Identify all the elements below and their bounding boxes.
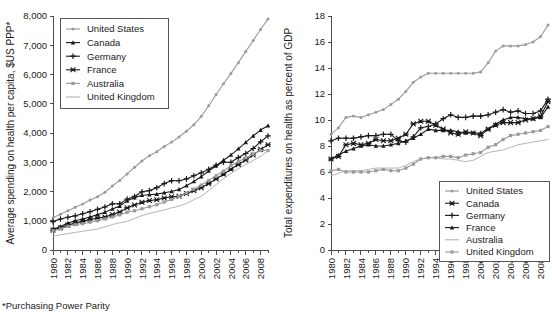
y-tick-label: 10 bbox=[314, 114, 325, 125]
data-point-marker bbox=[449, 155, 452, 158]
data-point-marker bbox=[397, 169, 400, 172]
data-point-marker bbox=[237, 160, 240, 163]
data-point-marker bbox=[479, 70, 482, 73]
data-point-marker bbox=[494, 50, 497, 53]
y-tick-label: 4,000 bbox=[23, 127, 47, 138]
data-point-marker bbox=[425, 119, 431, 124]
data-point-marker bbox=[547, 24, 550, 27]
x-tick-label: 1990 bbox=[122, 258, 133, 279]
data-point-marker bbox=[478, 113, 484, 119]
y-tick-label: 0 bbox=[320, 244, 325, 255]
x-tick-label: 1986 bbox=[370, 258, 381, 279]
y-tick-label: 8 bbox=[320, 140, 325, 151]
data-point-marker bbox=[374, 111, 377, 114]
data-point-marker bbox=[545, 96, 551, 102]
data-point-marker bbox=[487, 61, 490, 64]
data-point-marker bbox=[163, 145, 166, 148]
data-point-marker bbox=[515, 108, 521, 114]
data-point-marker bbox=[81, 202, 84, 205]
data-point-marker bbox=[59, 213, 62, 216]
data-point-marker bbox=[96, 195, 99, 198]
data-point-marker bbox=[352, 170, 355, 173]
data-point-marker bbox=[267, 17, 270, 20]
data-point-marker bbox=[124, 205, 130, 210]
data-point-marker bbox=[155, 150, 158, 153]
y-tick-label: 12 bbox=[314, 88, 325, 99]
data-point-marker bbox=[154, 185, 160, 191]
data-point-marker bbox=[200, 183, 203, 186]
data-point-marker bbox=[103, 191, 106, 194]
data-point-marker bbox=[494, 143, 497, 146]
x-tick-label: 2004 bbox=[226, 258, 237, 279]
data-point-marker bbox=[427, 156, 430, 159]
data-point-marker bbox=[381, 132, 387, 138]
data-point-marker bbox=[509, 134, 512, 137]
legend-label: Australia bbox=[87, 78, 125, 89]
legend-label: United States bbox=[466, 185, 523, 196]
data-point-marker bbox=[472, 152, 475, 155]
data-point-marker bbox=[140, 207, 143, 210]
data-point-marker bbox=[351, 135, 357, 141]
data-point-marker bbox=[71, 82, 74, 85]
data-point-marker bbox=[329, 169, 332, 172]
chart-panel-right: 0246810121416181980198219841986198819901… bbox=[278, 0, 552, 300]
data-point-marker bbox=[222, 82, 225, 85]
data-point-marker bbox=[169, 178, 175, 184]
data-point-marker bbox=[161, 181, 167, 187]
legend-label: United Kingdom bbox=[87, 91, 155, 102]
data-point-marker bbox=[328, 138, 334, 144]
data-point-marker bbox=[546, 125, 549, 128]
data-point-marker bbox=[65, 214, 71, 220]
data-point-marker bbox=[472, 72, 475, 75]
data-point-marker bbox=[397, 98, 400, 101]
data-point-marker bbox=[178, 135, 181, 138]
health-spending-figure: 01,0002,0003,0004,0005,0006,0007,0008,00… bbox=[0, 0, 552, 316]
series-line bbox=[331, 107, 548, 159]
data-point-marker bbox=[502, 138, 505, 141]
data-point-marker bbox=[457, 72, 460, 75]
data-point-marker bbox=[87, 209, 93, 215]
data-point-marker bbox=[532, 41, 535, 44]
data-point-marker bbox=[96, 219, 99, 222]
data-point-marker bbox=[66, 225, 69, 228]
y-tick-label: 3,000 bbox=[23, 157, 47, 168]
data-point-marker bbox=[72, 213, 78, 219]
data-point-marker bbox=[80, 211, 86, 217]
data-point-marker bbox=[252, 152, 255, 155]
data-point-marker bbox=[427, 72, 430, 75]
data-point-marker bbox=[52, 216, 55, 219]
data-point-marker bbox=[410, 122, 416, 127]
x-tick-label: 1982 bbox=[62, 258, 73, 279]
data-point-marker bbox=[539, 129, 542, 132]
data-point-marker bbox=[509, 44, 512, 47]
data-point-marker bbox=[50, 219, 56, 225]
data-point-marker bbox=[516, 133, 519, 136]
chart-panel-left: 01,0002,0003,0004,0005,0006,0007,0008,00… bbox=[0, 0, 278, 300]
data-point-marker bbox=[72, 28, 75, 31]
data-point-marker bbox=[336, 135, 342, 141]
chart-left-svg: 01,0002,0003,0004,0005,0006,0007,0008,00… bbox=[0, 0, 278, 300]
data-point-marker bbox=[343, 135, 349, 141]
y-tick-label: 6 bbox=[320, 166, 325, 177]
legend-label: Australia bbox=[466, 234, 504, 245]
x-tick-label: 1988 bbox=[385, 258, 396, 279]
data-point-marker bbox=[487, 146, 490, 149]
chart-right-svg: 0246810121416181980198219841986198819901… bbox=[278, 0, 552, 300]
data-point-marker bbox=[524, 131, 527, 134]
data-point-marker bbox=[426, 127, 430, 131]
data-point-marker bbox=[344, 116, 347, 119]
x-tick-label: 1992 bbox=[137, 258, 148, 279]
data-point-marker bbox=[389, 103, 392, 106]
data-point-marker bbox=[206, 166, 212, 172]
data-point-marker bbox=[389, 169, 392, 172]
data-point-marker bbox=[434, 156, 437, 159]
data-point-marker bbox=[374, 169, 377, 172]
y-tick-label: 18 bbox=[314, 10, 325, 21]
y-tick-label: 6,000 bbox=[23, 69, 47, 80]
x-tick-label: 1986 bbox=[92, 258, 103, 279]
data-point-marker bbox=[464, 72, 467, 75]
data-point-marker bbox=[434, 72, 437, 75]
data-point-marker bbox=[192, 188, 195, 191]
data-point-marker bbox=[147, 188, 153, 194]
data-point-marker bbox=[111, 185, 114, 188]
